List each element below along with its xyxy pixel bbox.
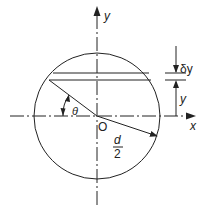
circle-section-diagram: y x O θ δy y d 2 [0,0,203,211]
origin-label: O [98,120,107,134]
y-dim-arrow-icon [173,80,179,88]
theta-label: θ [72,105,78,117]
diagram-svg: y x O θ δy y d 2 [0,0,203,211]
y-dimension-label: y [179,92,187,106]
delta-y-label: δy [180,62,193,76]
x-axis-label: x [189,119,197,133]
theta-arrow-icon-bottom [61,108,66,116]
y-axis-arrow-icon [94,6,101,16]
radius-denominator: 2 [114,147,121,161]
dy-top-arrow-icon [173,65,179,73]
y-axis-label: y [103,9,111,23]
theta-arrow-icon-top [65,95,70,102]
radius-numerator: d [114,133,121,147]
